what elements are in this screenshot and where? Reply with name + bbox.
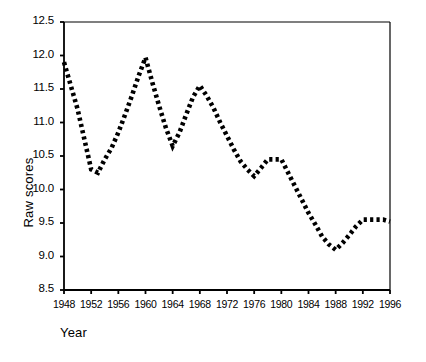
- line-chart-figure: 8.59.09.510.010.511.011.512.012.5 194819…: [0, 0, 426, 362]
- y-tick-label: 9.0: [20, 249, 54, 261]
- y-tick-label: 12.0: [20, 48, 54, 60]
- x-axis-title: Year: [60, 325, 87, 340]
- y-tick-label: 11.5: [20, 81, 54, 93]
- y-tick-label: 8.5: [20, 282, 54, 294]
- y-axis-title: Raw scores: [21, 138, 36, 248]
- y-tick-label: 11.0: [20, 115, 54, 127]
- axes-frame: [64, 22, 390, 290]
- data-series-line: [64, 58, 390, 250]
- x-tick-label: 1996: [373, 298, 407, 310]
- y-tick-label: 12.5: [20, 14, 54, 26]
